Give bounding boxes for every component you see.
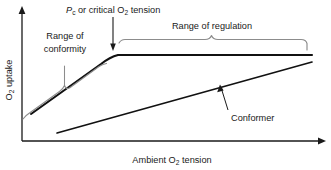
y-axis-title: O2 uptake	[4, 60, 15, 101]
range-of-conformity-label-line2: conformity	[44, 44, 87, 54]
pc-label-tail: tension	[128, 5, 160, 15]
chart-canvas: Pc or critical O2 tension Range of confo…	[0, 0, 331, 170]
pc-label-rest: or critical O	[75, 5, 124, 15]
y-axis-title-rest: uptake	[4, 60, 14, 90]
oxygen-uptake-chart: Pc or critical O2 tension Range of confo…	[0, 0, 331, 170]
conformer-label: Conformer	[231, 113, 274, 123]
x-axis-arrowhead	[318, 138, 326, 145]
y-axis-arrowhead	[19, 6, 26, 14]
x-axis-title: Ambient O2 tension	[132, 155, 211, 166]
pc-arrow	[110, 17, 116, 51]
regulator-curve	[31, 55, 312, 114]
conformer-leader-line	[217, 85, 228, 111]
x-axis-title-rest: tension	[179, 155, 211, 165]
range-of-conformity-label-line1: Range of	[46, 31, 84, 41]
y-axis-title-main: O	[4, 93, 14, 100]
range-of-regulation-brace	[119, 36, 307, 51]
x-axis-title-main: Ambient O	[132, 155, 175, 165]
pc-critical-tension-label: Pc or critical O2 tension	[66, 5, 160, 16]
range-of-regulation-label: Range of regulation	[172, 21, 252, 31]
